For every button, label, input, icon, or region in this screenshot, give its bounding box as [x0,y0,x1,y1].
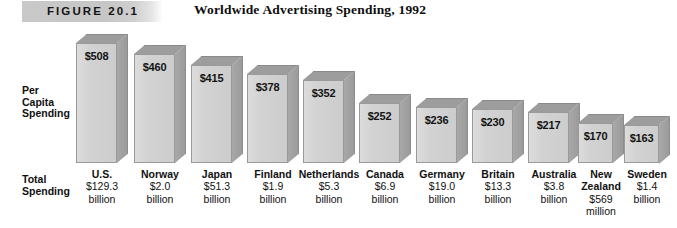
bar-value-label: $378 [247,81,288,93]
category-name: Sweden [614,168,677,180]
bar-norway: $460Norway$2.0 billion [134,54,186,163]
bar-value-label: $352 [303,87,344,99]
bar-group: $252Canada$6.9 billion [359,103,411,163]
figure-number-label: FIGURE 20.1 [22,1,162,22]
bar-group: $163Sweden$1.4 billion [624,125,670,164]
bar-side-face [344,71,355,163]
figure-number-banner: FIGURE 20.1 [22,1,162,22]
bar-side-face [232,56,243,163]
bar-caption: Sweden$1.4 billion [614,168,677,205]
bar-group: $230Britain$13.3 billion [472,109,524,163]
bar-value-label: $252 [359,110,400,122]
bar-group: $415Japan$51.3 billion [191,65,243,163]
bar-side-face [288,64,299,163]
bar-side-face [513,99,524,163]
bar-front-face [624,125,659,164]
bar-japan: $415Japan$51.3 billion [191,65,243,163]
bar-chart-plot-area: $508U.S.$129.3 billion$460Norway$2.0 bil… [0,26,677,228]
bar-germany: $236Germany$19.0 billion [416,107,468,163]
bar-group: $236Germany$19.0 billion [416,107,468,163]
bar-new-zealand: $170New Zealand$569 million [578,123,624,163]
chart-title: Worldwide Advertising Spending, 1992 [194,2,426,18]
bar-britain: $230Britain$13.3 billion [472,109,524,163]
bar-value-label: $508 [76,50,117,62]
bar-group: $352Netherlands$5.3 billion [303,80,355,163]
bar-group: $217Australia$3.8 billion [528,112,580,163]
bar-value-label: $163 [624,132,659,144]
bar-sweden: $163Sweden$1.4 billion [624,125,670,164]
category-total-spending: $1.4 billion [614,180,677,205]
bar-group: $460Norway$2.0 billion [134,54,186,163]
bar-u.s.: $508U.S.$129.3 billion [76,43,128,163]
bar-value-label: $170 [578,130,613,142]
bar-side-face [457,98,468,163]
bar-netherlands: $352Netherlands$5.3 billion [303,80,355,163]
bar-side-face [400,94,411,163]
bar-group: $378Finland$1.9 billion [247,74,299,163]
bar-australia: $217Australia$3.8 billion [528,112,580,163]
bar-value-label: $460 [134,61,175,73]
bar-side-face [117,34,128,163]
bar-canada: $252Canada$6.9 billion [359,103,411,163]
bar-value-label: $217 [528,119,569,131]
bar-value-label: $230 [472,116,513,128]
bar-group: $508U.S.$129.3 billion [76,43,128,163]
figure-header: FIGURE 20.1 Worldwide Advertising Spendi… [0,0,677,26]
bar-value-label: $236 [416,114,457,126]
bar-value-label: $415 [191,72,232,84]
bar-group: $170New Zealand$569 million [578,123,624,163]
bar-side-face [175,45,186,163]
bar-finland: $378Finland$1.9 billion [247,74,299,163]
